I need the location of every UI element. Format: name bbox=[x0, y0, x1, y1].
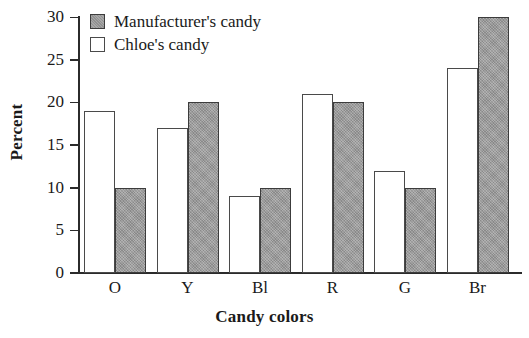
legend-item-manufacturer: Manufacturer's candy bbox=[90, 10, 261, 33]
bar-manufacturer-Br bbox=[478, 17, 509, 273]
bar-manufacturer-Y bbox=[188, 102, 219, 273]
bar-chloe-Bl bbox=[229, 196, 260, 273]
legend-swatch-open-white-square-icon bbox=[90, 37, 105, 52]
legend-item-chloe: Chloe's candy bbox=[90, 33, 261, 56]
bar-chloe-G bbox=[374, 171, 405, 273]
legend: Manufacturer's candy Chloe's candy bbox=[90, 10, 261, 56]
bar-chloe-Y bbox=[157, 128, 188, 273]
bar-chloe-O bbox=[84, 111, 115, 273]
legend-swatch-filled-gray-square-icon bbox=[90, 14, 105, 29]
legend-label-manufacturer: Manufacturer's candy bbox=[114, 12, 261, 32]
bar-manufacturer-Bl bbox=[260, 188, 291, 273]
bar-manufacturer-G bbox=[405, 188, 436, 273]
bar-manufacturer-R bbox=[333, 102, 364, 273]
bar-chloe-Br bbox=[447, 68, 478, 273]
bar-chloe-R bbox=[302, 94, 333, 273]
bar-manufacturer-O bbox=[115, 188, 146, 273]
x-tick-label-Br: Br bbox=[435, 278, 521, 298]
bar-chart: Percent Candy colors 30 25 20 15 10 5 0 … bbox=[0, 0, 529, 338]
legend-label-chloe: Chloe's candy bbox=[114, 35, 209, 55]
